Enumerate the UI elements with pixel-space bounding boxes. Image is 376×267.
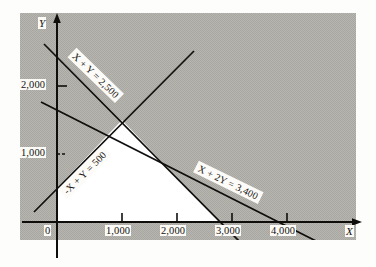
x-axis-label: X xyxy=(345,225,354,237)
plot-canvas xyxy=(0,0,376,267)
x-tick-label-4000: 4,000 xyxy=(270,225,296,236)
y-tick-label-2000: 2,000 xyxy=(20,79,46,90)
origin-label: 0 xyxy=(44,225,51,236)
x-tick-label-1000: 1,000 xyxy=(105,225,131,236)
y-tick-label-1000: 1,000 xyxy=(20,147,46,158)
linear-programming-figure: Y X 0 1,000 2,000 3,000 4,000 2,000 1,00… xyxy=(0,0,376,267)
x-tick-label-2000: 2,000 xyxy=(160,225,186,236)
y-axis-label: Y xyxy=(38,17,46,29)
x-tick-label-3000: 3,000 xyxy=(215,225,241,236)
